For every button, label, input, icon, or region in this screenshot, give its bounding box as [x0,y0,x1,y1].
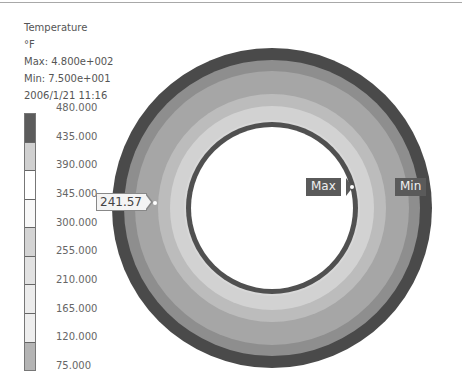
temperature-ring-plot[interactable] [0,0,462,391]
max-probe-label[interactable]: Max [306,178,341,196]
probe-value-marker [153,201,157,205]
max-probe-marker [350,185,354,189]
min-probe-label[interactable]: Min [395,178,426,196]
probe-value-label[interactable]: 241.57 [96,193,147,211]
ring-hole [191,127,353,289]
probe-value-pointer-fill [145,194,151,210]
